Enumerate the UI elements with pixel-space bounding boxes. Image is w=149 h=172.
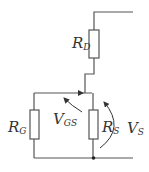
label-vs: VS: [127, 119, 144, 137]
vgs-arrow-icon: [64, 98, 82, 112]
label-vgs: VGS: [53, 110, 77, 128]
drain-wire: [85, 58, 94, 93]
label-rd: RD: [71, 34, 91, 52]
resistor-rs: [89, 110, 98, 139]
supply-wire: [94, 12, 133, 30]
label-rg: RG: [7, 118, 27, 136]
jfet-self-bias-circuit: RD RG RS VGS VS: [0, 0, 149, 172]
junction-dot: [92, 156, 96, 160]
resistor-rg: [30, 110, 39, 139]
channel-arrow-icon: [78, 90, 84, 96]
label-rs: RS: [101, 118, 119, 136]
